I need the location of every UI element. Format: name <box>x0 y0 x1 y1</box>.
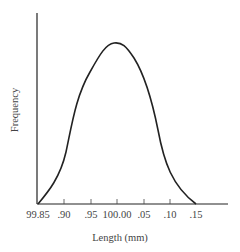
tick-label-5: .10 <box>163 209 176 220</box>
tick-label-2: .95 <box>84 209 97 220</box>
tick-label-3: 100.00 <box>103 209 132 220</box>
frequency-chart: 99.85 .90 .95 100.00 .05 .10 .15 Length … <box>0 0 240 252</box>
tick-label-0: 99.85 <box>26 209 50 220</box>
tick-label-6: .15 <box>189 209 202 220</box>
tick-label-1: .90 <box>57 209 70 220</box>
x-axis-label: Length (mm) <box>92 232 148 244</box>
x-ticks <box>64 199 170 204</box>
y-axis-label: Frequency <box>9 87 20 132</box>
frequency-curve <box>38 43 196 204</box>
tick-label-4: .05 <box>137 209 150 220</box>
